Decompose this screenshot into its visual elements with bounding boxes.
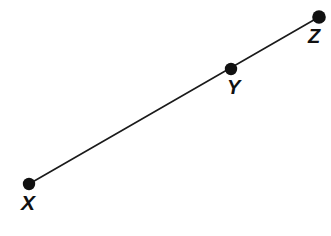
point-label-y: Y: [227, 77, 240, 97]
point-label-x: X: [21, 192, 35, 213]
point-dot-y: [225, 63, 237, 75]
point-dot-z: [312, 10, 326, 24]
diagram-svg: [0, 0, 331, 236]
point-dot-x: [23, 178, 35, 190]
point-label-z: Z: [308, 26, 320, 46]
geometry-diagram-canvas: X Y Z: [0, 0, 331, 236]
line-segment-xz: [29, 17, 319, 184]
